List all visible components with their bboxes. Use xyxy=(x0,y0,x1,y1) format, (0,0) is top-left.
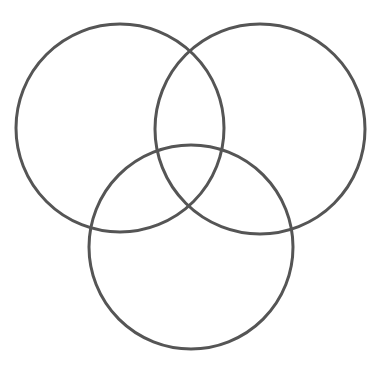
venn-circle-left xyxy=(16,24,224,232)
venn-diagram xyxy=(0,0,383,374)
venn-circle-bottom xyxy=(89,145,293,349)
venn-circle-right xyxy=(155,24,365,234)
